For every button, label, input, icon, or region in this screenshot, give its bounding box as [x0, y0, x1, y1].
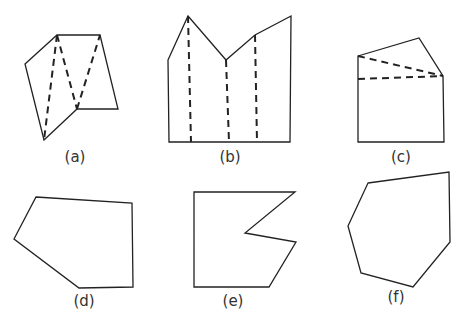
dashed-diagonal: [255, 35, 257, 142]
dashed-diagonal: [358, 56, 443, 76]
figure-a: (a): [25, 35, 118, 166]
polygon-e: [194, 192, 296, 287]
figure-f: (f): [348, 172, 450, 306]
dashed-diagonal: [44, 35, 57, 140]
label-d: (d): [73, 292, 94, 310]
polygon-d: [14, 197, 133, 288]
dashed-diagonal: [77, 35, 100, 109]
figure-b: (b): [168, 16, 291, 166]
partition-lines-c: [358, 56, 443, 79]
polygon-b: [168, 16, 291, 142]
label-e: (e): [223, 292, 244, 310]
triangulation-a: [44, 35, 100, 140]
label-b: (b): [219, 148, 240, 166]
polygon-diagram: (a) (b) (c) (d) (e) (f): [0, 0, 469, 322]
dashed-diagonal: [226, 60, 229, 142]
label-f: (f): [388, 288, 405, 306]
dashed-diagonal: [188, 16, 191, 142]
figure-d: (d): [14, 197, 133, 310]
figure-e: (e): [194, 192, 296, 310]
label-a: (a): [65, 148, 86, 166]
dashed-diagonal: [57, 35, 77, 109]
dashed-diagonal: [358, 76, 443, 79]
polygon-f: [348, 172, 450, 287]
figure-c: (c): [358, 38, 444, 166]
label-c: (c): [391, 148, 411, 166]
partition-lines-b: [188, 16, 257, 142]
polygon-c: [358, 38, 444, 142]
